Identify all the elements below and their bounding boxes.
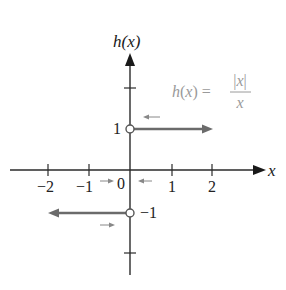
y-axis-arrow-icon [125,53,135,66]
branch-arrow-right-icon [202,125,213,134]
y-tick-label: −1 [140,204,157,221]
formula-denominator: x [235,94,243,111]
open-circle-icon [126,209,134,217]
branch-negative [48,209,134,218]
open-circle-icon [126,125,134,133]
x-axis-label: x [267,161,276,180]
branch-positive [126,125,213,134]
formula-numerator: |x| [233,72,247,90]
y-axis-label: h(x) [113,32,141,51]
x-tick-label: 2 [208,178,216,195]
approach-arrow-left-icon [143,115,160,120]
approach-arrow-right-icon [100,223,115,228]
formula-lhs: h(x) = [172,83,211,101]
function-formula: h(x) = |x| x [172,72,251,111]
y-tick-label: 1 [113,120,121,137]
branch-arrow-left-icon [48,209,59,218]
y-axis [124,53,136,275]
x-tick-label: 1 [168,178,176,195]
approach-arrow-right-icon [100,179,114,184]
x-axis-arrow-icon [253,165,266,175]
chart-canvas: h(x) x −2 −1 0 1 2 1 −1 h(x) = |x| x [0,0,286,290]
x-tick-label: −2 [37,178,54,195]
x-tick-label: −1 [76,178,93,195]
approach-arrow-left-icon [138,179,152,184]
x-axis [10,164,266,176]
origin-label: 0 [117,175,125,192]
